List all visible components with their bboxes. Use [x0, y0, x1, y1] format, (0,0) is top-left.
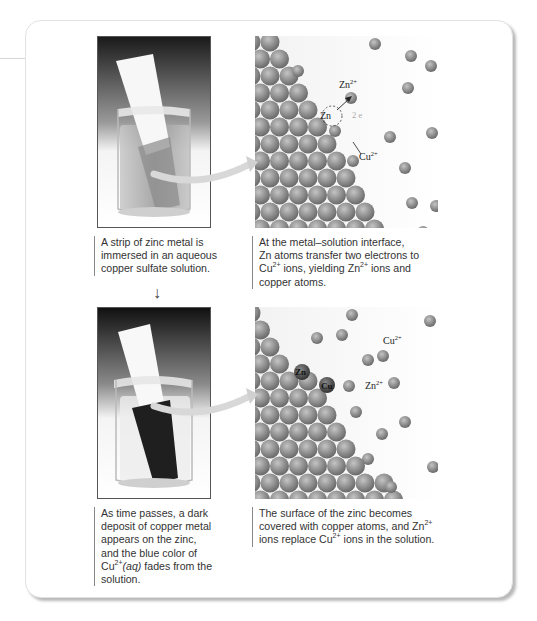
- atomic-view-interface: Zn2+ Zn 2 e Cu2+: [255, 36, 438, 228]
- caption-step1: A strip of zinc metal is immersed in an …: [94, 236, 241, 276]
- label-cu-ion: Cu: [359, 151, 371, 162]
- label-cu-atom: Cu: [321, 381, 333, 391]
- decorative-rule: [0, 58, 26, 59]
- photo-zinc-in-solution: [97, 36, 211, 228]
- label-zn-ion: Zn: [339, 79, 350, 90]
- svg-text:Cu2+: Cu2+: [383, 334, 402, 346]
- caption-step2: As time passes, a dark deposit of copper…: [94, 507, 241, 586]
- svg-text:Zn2+: Zn2+: [339, 78, 357, 90]
- photo-copper-deposit: [97, 307, 211, 499]
- atomic-view-deposit: Zn Cu Cu2+ Zn2+: [255, 307, 438, 499]
- svg-text:Cu2+: Cu2+: [359, 150, 378, 162]
- label-electrons: 2 e: [352, 110, 362, 120]
- label-zn-atom: Zn: [320, 110, 331, 121]
- label-cu-ion-bottom: Cu: [383, 335, 395, 346]
- label-zn-atom-bottom: Zn: [295, 367, 306, 377]
- caption-step1-interface: At the metal–solution interface, Zn atom…: [252, 236, 469, 289]
- caption-step2-surface: The surface of the zinc becomes covered …: [252, 507, 479, 547]
- down-arrow-icon: ↓: [153, 285, 161, 301]
- svg-text:Zn2+: Zn2+: [365, 379, 383, 391]
- label-zn-ion-bottom: Zn: [365, 380, 376, 391]
